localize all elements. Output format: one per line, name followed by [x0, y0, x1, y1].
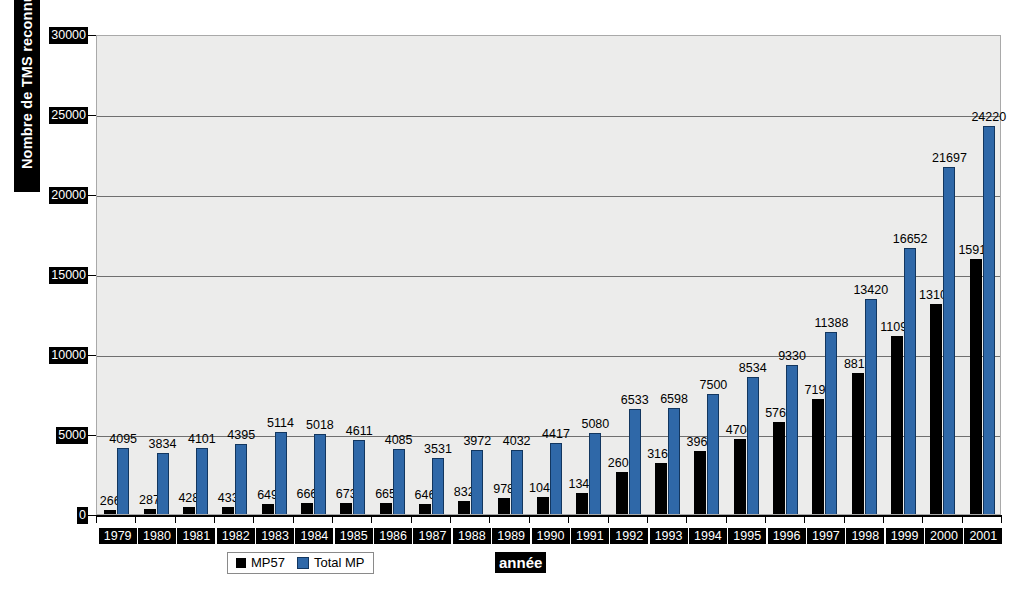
y-tick-label: 30000: [49, 27, 88, 44]
y-tick-label: 10000: [49, 347, 88, 364]
x-tick-label: 1981: [177, 528, 215, 544]
bar-mp57: [380, 503, 392, 514]
x-tick-mark: [332, 515, 333, 523]
x-tick-mark: [1001, 515, 1002, 523]
bar-mp57: [262, 504, 274, 514]
bar-mp57: [891, 336, 903, 514]
y-tick-mark: [88, 195, 96, 196]
chart-legend: MP57Total MP: [227, 552, 374, 574]
y-axis-ticks: 300002500020000150001000050000: [0, 35, 88, 515]
x-tick-mark: [726, 515, 727, 523]
x-tick-mark: [922, 515, 923, 523]
bar-group: 4334395: [222, 34, 247, 514]
bar-mp57: [183, 507, 195, 514]
bar-total-mp: [393, 449, 405, 514]
bar-total-mp: [314, 434, 326, 514]
x-tick-label: 1983: [256, 528, 294, 544]
bar-mp57: [458, 501, 470, 514]
bar-group: 2873834: [144, 34, 169, 514]
bar-mp57: [930, 304, 942, 514]
bar-group: 6734611: [340, 34, 365, 514]
bar-group: 6495114: [262, 34, 287, 514]
y-tick-mark: [88, 355, 96, 356]
x-tick-label: 1995: [728, 528, 766, 544]
bar-mp57: [301, 503, 313, 514]
bar-group: 8323972: [458, 34, 483, 514]
bar-mp57: [222, 507, 234, 514]
bar-group: 2664095: [104, 34, 129, 514]
bar-total-mp: [707, 394, 719, 514]
x-tick-mark: [293, 515, 294, 523]
bar-group: 26026533: [616, 34, 641, 514]
x-tick-mark: [608, 515, 609, 523]
bar-value-label-total-mp: 7500: [690, 378, 736, 392]
x-tick-label: 1988: [453, 528, 491, 544]
x-tick-label: 1996: [768, 528, 806, 544]
bar-mp57: [340, 503, 352, 514]
y-tick-mark: [88, 435, 96, 436]
x-tick-label: 1999: [886, 528, 924, 544]
x-tick-label: 1986: [374, 528, 412, 544]
plot-area: 2664095287383442841014334395649511466650…: [96, 35, 1001, 515]
bar-value-label-total-mp: 16652: [887, 232, 933, 246]
legend-label: Total MP: [314, 556, 365, 570]
x-tick-mark: [883, 515, 884, 523]
x-tick-mark: [765, 515, 766, 523]
bar-mp57: [104, 510, 116, 514]
bar-mp57: [419, 504, 431, 514]
x-tick-mark: [96, 515, 97, 523]
bar-group: 719511388: [812, 34, 837, 514]
bar-value-label-total-mp: 6598: [651, 392, 697, 406]
bar-value-label-total-mp: 21697: [926, 151, 972, 165]
bar-mp57: [144, 509, 156, 514]
legend-entry: MP57: [236, 556, 285, 570]
legend-swatch-icon: [297, 557, 309, 569]
y-tick-mark: [88, 115, 96, 116]
bar-group: 47048534: [734, 34, 759, 514]
bar-group: 6463531: [419, 34, 444, 514]
bar-group: 10404417: [537, 34, 562, 514]
bar-group: 39637500: [694, 34, 719, 514]
bar-total-mp: [747, 377, 759, 514]
bar-value-label-total-mp: 11388: [808, 316, 854, 330]
x-tick-mark: [411, 515, 412, 523]
bar-total-mp: [589, 433, 601, 514]
x-tick-label: 1992: [610, 528, 648, 544]
y-tick-label: 20000: [49, 187, 88, 204]
legend-swatch-icon: [236, 558, 246, 568]
x-tick-mark: [962, 515, 963, 523]
bar-group: 6654085: [380, 34, 405, 514]
bar-group: 13425080: [576, 34, 601, 514]
x-tick-label: 1985: [335, 528, 373, 544]
bar-total-mp: [668, 408, 680, 514]
bar-mp57: [498, 498, 510, 514]
x-tick-mark: [647, 515, 648, 523]
bar-value-label-total-mp: 13420: [848, 283, 894, 297]
x-tick-label: 1991: [571, 528, 609, 544]
bar-value-label-total-mp: 24220: [966, 110, 1012, 124]
bar-group: 31656598: [655, 34, 680, 514]
bar-mp57: [773, 422, 785, 514]
bar-group: 881513420: [852, 34, 877, 514]
x-axis-title: année: [495, 552, 546, 573]
bar-total-mp: [275, 432, 287, 514]
y-tick-mark: [88, 515, 96, 516]
bar-group: 9784032: [498, 34, 523, 514]
x-tick-label: 1980: [138, 528, 176, 544]
x-tick-label: 1982: [217, 528, 255, 544]
chart-figure: Nombre de TMS reconnus 30000250002000015…: [0, 0, 1027, 602]
legend-entry: Total MP: [297, 556, 365, 570]
y-tick-label: 5000: [56, 427, 88, 444]
x-tick-label: 1987: [413, 528, 451, 544]
bar-mp57: [576, 493, 588, 514]
x-tick-mark: [253, 515, 254, 523]
y-tick-mark: [88, 35, 96, 36]
x-tick-label: 1998: [846, 528, 884, 544]
x-tick-label: 1989: [492, 528, 530, 544]
bar-group: 57679330: [773, 34, 798, 514]
x-tick-label: 1997: [807, 528, 845, 544]
bar-mp57: [694, 451, 706, 514]
x-tick-mark: [175, 515, 176, 523]
x-tick-label: 1994: [689, 528, 727, 544]
bar-mp57: [852, 373, 864, 514]
